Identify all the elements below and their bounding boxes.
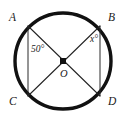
- vertex-label-d: D: [108, 96, 116, 108]
- vertex-label-b: B: [108, 12, 115, 24]
- geometry-canvas: [0, 0, 125, 124]
- center-label-o: O: [60, 69, 68, 80]
- vertex-label-c: C: [9, 96, 17, 108]
- geometry-figure: A B C D O 50° x°: [0, 0, 125, 124]
- vertex-label-a: A: [9, 12, 16, 24]
- angle-label-x-degrees: x°: [90, 35, 98, 45]
- center-point-marker: [60, 58, 66, 64]
- angle-label-50-degrees: 50°: [31, 45, 44, 55]
